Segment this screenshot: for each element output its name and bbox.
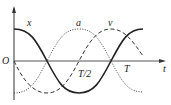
curve-a-label: a xyxy=(76,17,81,28)
curve-x-label: x xyxy=(26,17,32,28)
curve-v-label: v xyxy=(108,17,113,28)
origin-label: O xyxy=(2,55,9,66)
t-axis-label: t xyxy=(163,63,166,74)
tick-half-period: T/2 xyxy=(78,68,91,79)
tick-period: T xyxy=(124,63,131,74)
shm-graph: O t T/2 T x v a xyxy=(0,0,171,105)
y-axis-arrow-icon xyxy=(12,6,16,13)
